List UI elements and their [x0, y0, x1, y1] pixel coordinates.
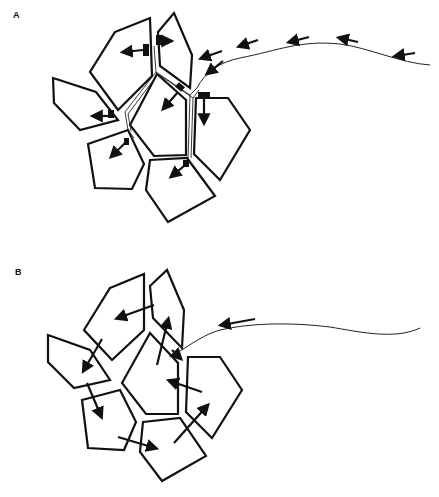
arrow-icon [124, 50, 143, 52]
diagram-canvas [0, 0, 439, 497]
panel-b [48, 270, 420, 481]
arrow-icon [87, 383, 101, 416]
arrow-icon [118, 437, 155, 448]
panel-a [53, 13, 430, 222]
arrow-icon [172, 166, 184, 176]
cell-b-top-left [84, 274, 144, 360]
arrow-icon [112, 142, 126, 156]
bouton-terminal [198, 92, 210, 98]
cell-b-center [122, 333, 178, 414]
cell-a-lower-left [88, 130, 144, 189]
cell-a-right [194, 98, 250, 180]
arrow-icon [340, 38, 358, 42]
arrow-icon [240, 40, 258, 46]
cell-b-top-middle [150, 270, 184, 348]
arrow-icon [208, 61, 223, 73]
bouton-terminal [156, 35, 162, 45]
cell-b-right [186, 357, 242, 438]
bouton-terminal [143, 44, 149, 56]
arrow-icon [164, 92, 178, 108]
cell-b-bottom [140, 418, 206, 481]
incoming-fibre-b [180, 324, 420, 351]
arrow-icon [202, 51, 222, 58]
incoming-fibre-a [197, 43, 430, 88]
cell-a-left [53, 78, 118, 130]
arrow-icon [396, 53, 415, 56]
arrow-icon [290, 37, 309, 42]
arrow-icon [222, 319, 255, 325]
arrow-icon [118, 305, 154, 318]
